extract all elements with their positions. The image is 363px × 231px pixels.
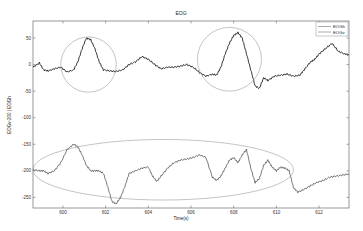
legend: EOGh EOGv (316, 22, 348, 36)
x-tick-label: 600 (59, 210, 67, 215)
x-axis-label: Time(s) (173, 216, 189, 221)
eog-chart: EOG 500-50-100-150-200-250 6006026046066… (0, 0, 363, 231)
y-tick-label: 50 (26, 36, 32, 41)
x-tick-label: 608 (230, 210, 238, 215)
y-tick-label: -150 (22, 142, 32, 147)
y-tick-label: 0 (28, 62, 31, 67)
x-tick-label: 612 (315, 210, 323, 215)
y-axis-label: EOGv-200 | EOGh (7, 96, 12, 134)
chart-title: EOG (175, 10, 186, 16)
y-tick-label: -200 (22, 168, 32, 173)
y-tick-label: -50 (24, 89, 31, 94)
x-tick-label: 604 (145, 210, 153, 215)
plot-area (33, 21, 349, 208)
legend-label-eogv: EOGv (333, 30, 346, 35)
x-tick-label: 606 (187, 210, 195, 215)
y-tick-label: -100 (22, 115, 32, 120)
y-tick-label: -250 (22, 195, 32, 200)
legend-label-eogh: EOGh (333, 24, 346, 29)
x-tick-label: 602 (102, 210, 110, 215)
x-tick-label: 610 (273, 210, 281, 215)
